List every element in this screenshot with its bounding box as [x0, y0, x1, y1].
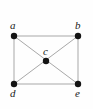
vertex-label-a: a	[10, 20, 16, 31]
graph-figure: a b c d e	[0, 0, 93, 109]
vertex-label-b: b	[75, 20, 81, 31]
vertex-c	[43, 58, 49, 64]
vertex-label-e: e	[75, 88, 80, 99]
vertex-label-c: c	[43, 46, 48, 57]
vertex-a	[11, 33, 17, 39]
vertex-b	[75, 33, 81, 39]
vertex-label-d: d	[10, 88, 16, 99]
